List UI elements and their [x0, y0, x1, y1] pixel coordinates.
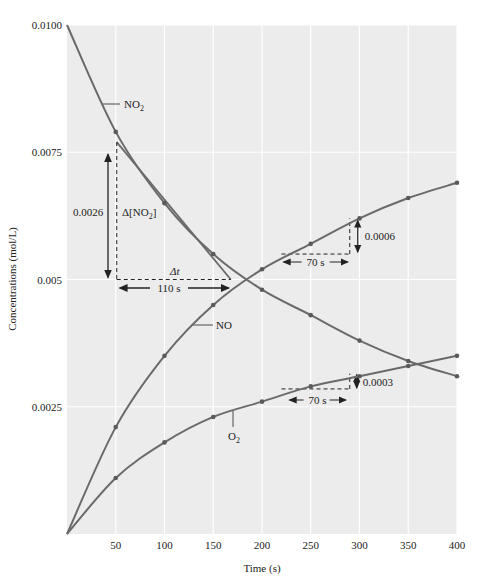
data-point [113, 425, 118, 430]
x-tick-label: 350 [400, 539, 417, 551]
y-tick-label: 0.0100 [32, 19, 63, 31]
delta-conc-value: 0.0026 [73, 206, 104, 218]
no-delta-t: 70 s [307, 256, 325, 268]
data-point [162, 440, 167, 445]
data-point [455, 354, 460, 359]
data-point [211, 415, 216, 420]
data-point [455, 374, 460, 379]
x-tick-label: 250 [303, 539, 320, 551]
data-point [162, 201, 167, 206]
data-point [357, 338, 362, 343]
y-axis-ticks: 0.00250.0050.00750.0100 [32, 19, 63, 413]
x-tick-label: 200 [254, 539, 271, 551]
y-tick-label: 0.0075 [32, 146, 63, 158]
delta-t-label: Δt [169, 265, 180, 277]
no-delta-value: 0.0006 [365, 230, 396, 242]
data-point [455, 180, 460, 185]
data-point [260, 267, 265, 272]
data-point [260, 399, 265, 404]
data-point [162, 354, 167, 359]
x-axis-ticks: 50100150200250300350400 [110, 539, 466, 551]
data-point [308, 242, 313, 247]
data-point [406, 196, 411, 201]
data-point [211, 252, 216, 257]
data-point [113, 476, 118, 481]
x-tick-label: 50 [110, 539, 122, 551]
x-axis-label: Time (s) [243, 562, 281, 575]
data-point [260, 287, 265, 292]
y-tick-label: 0.0025 [32, 401, 63, 413]
y-tick-label: 0.005 [37, 274, 62, 286]
delta-t-value: 110 s [157, 282, 180, 294]
data-point [406, 364, 411, 369]
x-tick-label: 100 [156, 539, 173, 551]
data-point [406, 359, 411, 364]
label-no: NO [216, 319, 232, 331]
data-point [211, 303, 216, 308]
o2-delta-value: 0.0003 [363, 376, 394, 388]
y-axis-label: Concentrations (mol/L) [6, 227, 19, 331]
data-point [113, 130, 118, 135]
x-tick-label: 150 [205, 539, 222, 551]
x-tick-label: 400 [449, 539, 466, 551]
o2-delta-t: 70 s [309, 394, 327, 406]
data-point [357, 374, 362, 379]
data-point [308, 384, 313, 389]
concentration-time-chart: 0.00250.0050.00750.0100 5010015020025030… [0, 0, 483, 577]
data-point [357, 216, 362, 221]
x-tick-label: 300 [351, 539, 368, 551]
data-point [308, 313, 313, 318]
